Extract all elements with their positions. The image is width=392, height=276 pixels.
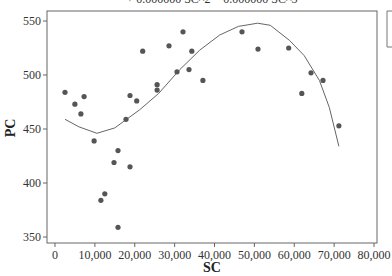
data-point	[78, 111, 83, 116]
y-axis: 350400450500550	[23, 14, 47, 244]
data-point	[186, 67, 191, 72]
data-point	[134, 98, 139, 103]
x-tick-label: 70,000	[318, 248, 351, 262]
regression-equation: + 0.000000 SC^2 − 0.000000 SC^3	[126, 0, 297, 6]
data-point	[255, 47, 260, 52]
y-axis-title: PC	[3, 119, 18, 138]
y-tick-label: 400	[23, 176, 41, 190]
y-tick-label: 550	[23, 14, 41, 28]
data-point	[155, 88, 160, 93]
data-point	[180, 29, 185, 34]
data-point	[127, 93, 132, 98]
data-point	[336, 123, 341, 128]
data-point	[189, 49, 194, 54]
y-tick-label: 350	[23, 230, 41, 244]
legend-box	[387, 11, 392, 47]
data-point	[98, 198, 103, 203]
data-point	[320, 78, 325, 83]
scatter-chart: + 0.000000 SC^2 − 0.000000 SC^3 35040045…	[0, 0, 392, 276]
x-tick-label: 50,000	[238, 248, 271, 262]
x-tick-label: 10,000	[78, 248, 111, 262]
data-point	[127, 164, 132, 169]
data-point	[308, 70, 313, 75]
x-axis-title: SC	[203, 260, 221, 275]
x-tick-label: 60,000	[278, 248, 311, 262]
x-tick-label: 80,000	[358, 248, 391, 262]
data-point	[102, 191, 107, 196]
data-point	[140, 49, 145, 54]
data-point	[200, 78, 205, 83]
data-point	[123, 117, 128, 122]
plot-frame	[47, 11, 377, 243]
x-tick-label: 0	[52, 248, 58, 262]
data-point	[92, 138, 97, 143]
data-point	[299, 91, 304, 96]
data-point	[111, 160, 116, 165]
data-point	[166, 43, 171, 48]
data-point	[115, 225, 120, 230]
data-point	[82, 94, 87, 99]
x-tick-label: 30,000	[158, 248, 191, 262]
x-tick-label: 20,000	[118, 248, 151, 262]
data-point	[155, 82, 160, 87]
y-tick-label: 500	[23, 68, 41, 82]
fit-curve	[65, 23, 339, 146]
data-points	[62, 29, 341, 230]
data-point	[72, 102, 77, 107]
data-point	[174, 69, 179, 74]
data-point	[115, 148, 120, 153]
x-axis: 010,00020,00030,00040,00050,00060,00070,…	[52, 243, 391, 262]
data-point	[286, 45, 291, 50]
data-point	[239, 29, 244, 34]
y-tick-label: 450	[23, 122, 41, 136]
data-point	[62, 90, 67, 95]
